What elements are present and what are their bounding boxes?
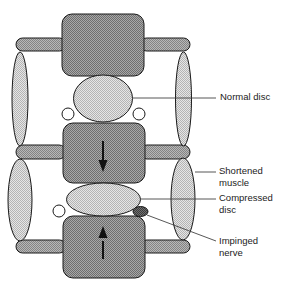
top-rod-left: [16, 38, 66, 51]
bottom-rod-left: [16, 240, 66, 253]
impinged-nerve: [133, 207, 148, 217]
compressed-disc: [67, 183, 141, 216]
nerve-left-upper: [62, 108, 74, 120]
label-impinged-nerve-line2: nerve: [219, 247, 258, 259]
label-shortened-muscle: Shortened muscle: [219, 165, 263, 189]
top-rod-right: [140, 38, 190, 51]
label-normal-disc-text: Normal disc: [220, 91, 270, 102]
middle-rod-left: [16, 145, 66, 159]
middle-rod-right: [140, 145, 190, 159]
nerve-left-lower: [53, 205, 65, 217]
label-compressed-disc-line1: Compressed: [219, 192, 273, 204]
label-shortened-muscle-line1: Shortened: [219, 165, 263, 177]
label-compressed-disc-line2: disc: [219, 204, 273, 216]
label-normal-disc: Normal disc: [220, 91, 270, 103]
normal-muscle-right: [176, 52, 192, 146]
top-vertebra: [62, 14, 144, 76]
shortened-muscle-left: [8, 159, 32, 241]
label-compressed-disc: Compressed disc: [219, 192, 273, 216]
bottom-rod-right: [140, 240, 190, 253]
label-impinged-nerve: Impinged nerve: [219, 235, 258, 259]
nerve-right-upper: [133, 108, 145, 120]
label-shortened-muscle-line2: muscle: [219, 177, 263, 189]
label-impinged-nerve-line1: Impinged: [219, 235, 258, 247]
normal-muscle-left: [12, 52, 28, 146]
normal-disc: [74, 75, 133, 122]
